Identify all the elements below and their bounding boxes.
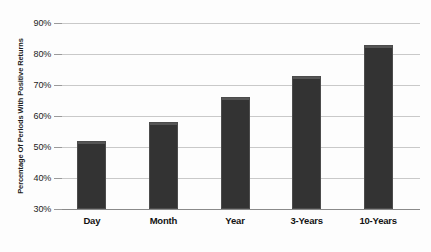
y-axis-tick-label: 60% [34, 111, 51, 121]
x-axis-tick-label: Day [83, 215, 100, 226]
gridline [62, 23, 420, 24]
y-axis-tick [54, 178, 62, 179]
plot-area: 90%80%70%60%50%40%30% DayMonthYear3-Year… [62, 23, 420, 209]
bar [77, 141, 106, 209]
y-axis-tick-label: 90% [34, 18, 51, 28]
y-axis-tick [54, 54, 62, 55]
x-axis-tick-label: 3-Years [290, 215, 322, 226]
x-axis-tick-label: Year [225, 215, 244, 226]
y-axis-tick-label: 30% [34, 204, 51, 214]
y-axis-tick [54, 209, 62, 210]
y-axis-title: Percentage Of Periods With Positive Retu… [14, 16, 28, 216]
y-axis-tick [54, 85, 62, 86]
y-axis-tick [54, 23, 62, 24]
bar-chart: Percentage Of Periods With Positive Retu… [0, 0, 431, 252]
bar [221, 97, 250, 209]
bar [364, 45, 393, 209]
y-axis-tick [54, 147, 62, 148]
y-axis-tick-label: 40% [34, 173, 51, 183]
y-axis-tick-label: 50% [34, 142, 51, 152]
y-axis-tick-label: 70% [34, 80, 51, 90]
bar [292, 76, 321, 209]
y-axis-tick-label: 80% [34, 49, 51, 59]
gridline [62, 209, 420, 210]
x-axis-tick-label: 10-Years [359, 215, 397, 226]
y-axis-tick [54, 116, 62, 117]
bar [149, 122, 178, 209]
x-axis-tick-label: Month [150, 215, 178, 226]
